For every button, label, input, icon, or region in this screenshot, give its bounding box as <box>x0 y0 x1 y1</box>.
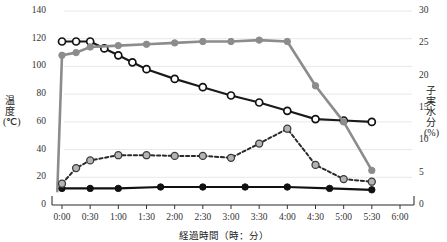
chart-plot-area <box>0 0 447 240</box>
chart-root: 温 度 (℃) 子 実 水 分 (%) 経過時間（時：分） 0204060801… <box>0 0 447 240</box>
